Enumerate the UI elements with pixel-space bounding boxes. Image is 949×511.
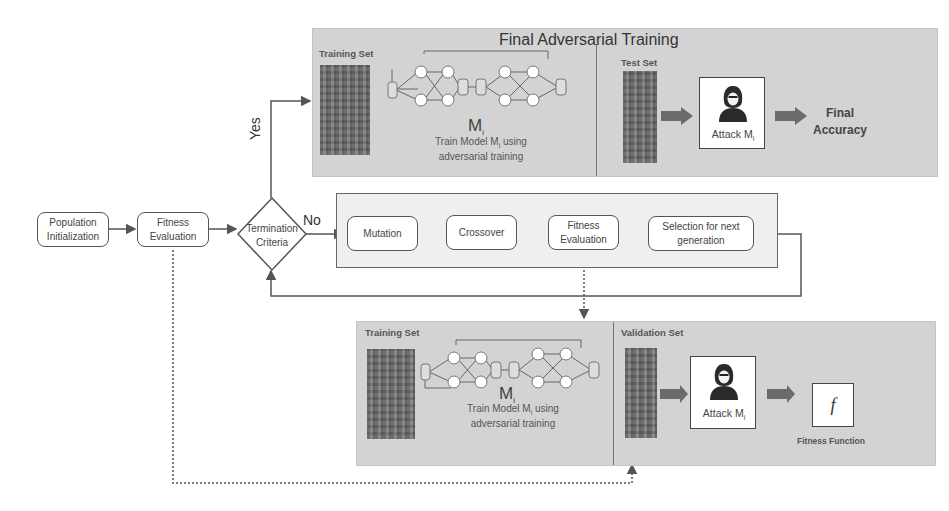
test-set-label: Test Set: [621, 57, 657, 68]
no-label: No: [303, 212, 321, 228]
attack-box: Attack Mi: [699, 77, 765, 149]
train-model-caption: Train Model Mi using adversarial trainin…: [411, 135, 551, 164]
population-initialization-node: PopulationInitialization: [37, 212, 109, 247]
training-set-label: Training Set: [319, 48, 373, 59]
right-arrow-icon: [661, 107, 695, 125]
test-set-image: [623, 71, 657, 163]
panel-divider: [596, 44, 597, 176]
training-set-image: [320, 65, 370, 155]
ga-fitness-evaluation-node: FitnessEvaluation: [548, 215, 619, 250]
attack-label: Attack Mi: [700, 128, 766, 142]
right-arrow-icon: [767, 385, 801, 403]
validation-set-label: Validation Set: [621, 327, 683, 338]
mutation-node: Mutation: [347, 216, 418, 251]
yes-label: Yes: [247, 117, 263, 140]
attack-label: Attack Mi: [691, 407, 757, 421]
final-adversarial-training-panel: Final Adversarial Training Training Set …: [312, 28, 938, 177]
final-accuracy-label: FinalAccuracy: [813, 105, 867, 139]
train-model-caption: Train Model Mi using adversarial trainin…: [443, 402, 583, 431]
fitness-function-symbol: f: [830, 395, 835, 416]
fitness-evaluation-detail-panel: Training Set Mi Train Model Mi using adv…: [356, 321, 936, 466]
selection-node: Selection for nextgeneration: [648, 216, 754, 251]
hacker-icon: [717, 84, 749, 122]
training-set-image: [367, 349, 415, 439]
termination-criteria-label: TerminationCriteria: [236, 222, 308, 249]
neural-network-icon: [388, 37, 588, 107]
right-arrow-icon: [660, 385, 694, 403]
fitness-function-label: Fitness Function: [797, 436, 865, 446]
fitness-evaluation-node: FitnessEvaluation: [137, 212, 209, 247]
validation-set-image: [625, 348, 657, 438]
right-arrow-icon: [775, 107, 809, 125]
fitness-function-box: f: [812, 383, 854, 427]
neural-network-icon: [421, 322, 621, 392]
attack-box: Attack Mi: [690, 356, 756, 429]
crossover-node: Crossover: [446, 215, 517, 250]
hacker-icon: [708, 362, 740, 400]
training-set-label: Training Set: [365, 327, 419, 338]
panel-divider: [613, 322, 614, 465]
